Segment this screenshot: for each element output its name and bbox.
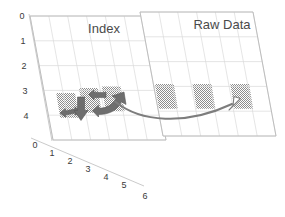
x-tick-label: 6: [142, 191, 147, 201]
x-tick-label: 4: [103, 172, 108, 182]
x-tick-label: 2: [67, 156, 72, 166]
x-tick-label: 0: [32, 140, 37, 150]
y-tick-label: 2: [21, 61, 26, 71]
y-tick-label: 3: [22, 86, 27, 96]
y-tick-label: 0: [19, 11, 24, 21]
x-tick-label: 5: [121, 180, 126, 190]
x-tick-label: 3: [85, 164, 90, 174]
y-tick-label: 4: [23, 111, 28, 121]
raw-shaded-cells: [155, 84, 253, 109]
index-plane-title: Index: [88, 21, 120, 36]
raw-data-plane-title: Raw Data: [193, 17, 251, 32]
x-tick-label: 1: [49, 148, 54, 158]
isometric-diagram: Index R: [0, 0, 285, 217]
y-tick-label: 1: [20, 36, 25, 46]
